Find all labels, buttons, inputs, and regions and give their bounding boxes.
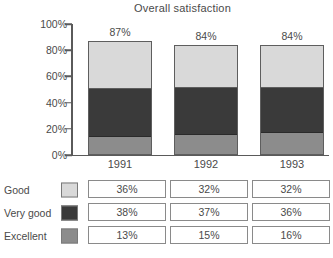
y-axis-tick-label: 40% — [23, 97, 67, 109]
bar-group: 87% — [88, 24, 152, 155]
legend-color-swatch — [61, 228, 78, 243]
y-axis-tick-label: 100% — [23, 18, 67, 30]
bar-group: 84% — [260, 24, 324, 155]
bar-segment-excellent[interactable] — [261, 133, 323, 154]
legend-color-swatch — [61, 205, 78, 220]
bar-segment-good[interactable] — [175, 46, 237, 87]
bar-segment-good[interactable] — [89, 42, 151, 88]
legend-value-cell: 13% — [88, 226, 166, 244]
bar-total-label: 87% — [88, 26, 152, 38]
bar-segment-verygood[interactable] — [175, 87, 237, 135]
x-axis-label: 1992 — [174, 158, 238, 170]
y-axis-tick-label: 80% — [23, 44, 67, 56]
chart-title: Overall satisfaction — [0, 2, 333, 14]
legend-label: Excellent — [4, 230, 47, 242]
legend-row: Very good38%37%36% — [0, 203, 333, 222]
legend-value-cell: 38% — [88, 203, 166, 221]
chart-root: Overall satisfaction 0%20%40%60%80%100% … — [0, 0, 333, 258]
legend-value-cell: 15% — [170, 226, 248, 244]
y-axis-tick-label: 20% — [23, 123, 67, 135]
bar-group: 84% — [174, 24, 238, 155]
y-axis-tick-label: 60% — [23, 70, 67, 82]
legend-value-cell: 36% — [252, 203, 330, 221]
bar-total-label: 84% — [174, 30, 238, 42]
legend-value-cell: 16% — [252, 226, 330, 244]
stacked-bar[interactable] — [260, 45, 324, 155]
plot-area: 0%20%40%60%80%100% 87%84%84% 19911992199… — [0, 18, 333, 158]
bar-segment-verygood[interactable] — [89, 88, 151, 137]
stacked-bar[interactable] — [88, 41, 152, 155]
legend-row: Excellent13%15%16% — [0, 226, 333, 245]
legend-row: Good36%32%32% — [0, 180, 333, 199]
legend-label: Very good — [4, 207, 51, 219]
x-axis-label: 1991 — [88, 158, 152, 170]
bar-segment-verygood[interactable] — [261, 87, 323, 133]
legend-label: Good — [4, 184, 30, 196]
legend-table: Good36%32%32%Very good38%37%36%Excellent… — [0, 180, 333, 250]
bar-total-label: 84% — [260, 30, 324, 42]
bar-segment-excellent[interactable] — [89, 137, 151, 154]
stacked-bar[interactable] — [174, 45, 238, 155]
legend-value-cell: 32% — [170, 180, 248, 198]
bar-segment-good[interactable] — [261, 46, 323, 87]
x-axis-label: 1993 — [260, 158, 324, 170]
bars-container: 87%84%84% — [71, 24, 329, 155]
legend-color-swatch — [61, 182, 78, 197]
legend-value-cell: 32% — [252, 180, 330, 198]
y-axis-tick-label: 0% — [23, 149, 67, 161]
legend-value-cell: 36% — [88, 180, 166, 198]
bar-segment-excellent[interactable] — [175, 135, 237, 154]
legend-value-cell: 37% — [170, 203, 248, 221]
